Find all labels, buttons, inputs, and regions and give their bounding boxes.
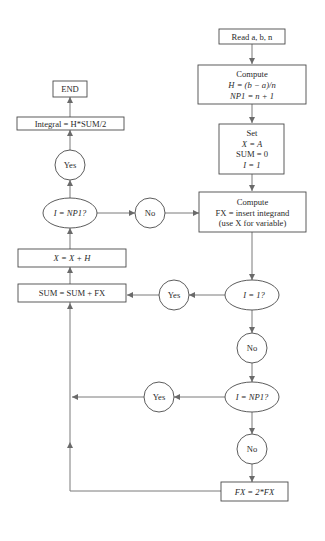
node-set-line2: X = A xyxy=(241,139,263,149)
node-compute-h-line3: NP1 = n + 1 xyxy=(229,91,274,101)
no-circle-i1: No xyxy=(237,333,267,363)
arrow-head-icon xyxy=(249,185,255,191)
arrow-head-icon xyxy=(249,327,255,333)
node-double-fx: FX = 2*FX xyxy=(221,482,288,501)
arrow-head-icon xyxy=(67,267,73,273)
arrow-head-icon xyxy=(249,117,255,123)
node-x-increment-label: X = X + H xyxy=(53,253,92,263)
node-end: END xyxy=(53,81,87,97)
arrow-head-icon xyxy=(129,210,135,216)
yes-circle-i1-label: Yes xyxy=(168,290,181,300)
arrow-head-icon xyxy=(249,476,255,482)
decision-i-equals-1-label: I = 1? xyxy=(242,290,265,300)
arrow-head-icon xyxy=(249,58,255,64)
node-compute-h-line2: H = (b − a)/n xyxy=(227,80,275,90)
node-sum-label: SUM = SUM + FX xyxy=(39,288,106,298)
yes-circle-i1: Yes xyxy=(159,280,189,310)
no-circle-left-label: No xyxy=(145,208,156,218)
arrow-head-icon xyxy=(249,428,255,434)
no-circle-i1-label: No xyxy=(247,343,258,353)
arrow-head-icon xyxy=(189,292,195,298)
decision-i-equals-np1-left: I = NP1? xyxy=(43,198,97,228)
decision-i-equals-np1-left-label: I = NP1? xyxy=(53,208,87,218)
node-read: Read a, b, n xyxy=(219,29,285,44)
arrow-head-icon xyxy=(67,180,73,186)
node-set-line4: I = 1 xyxy=(242,160,260,170)
node-compute-h-line1: Compute xyxy=(236,69,268,79)
arrow-head-icon xyxy=(249,376,255,382)
decision-i-equals-np1-right: I = NP1? xyxy=(225,382,279,412)
arrow-head-icon xyxy=(193,210,199,216)
node-read-label: Read a, b, n xyxy=(232,32,274,42)
node-compute-fx-line2: FX = insert integrand xyxy=(216,208,291,218)
node-double-fx-label: FX = 2*FX xyxy=(234,487,275,497)
node-end-label: END xyxy=(61,84,79,94)
arrow-head-icon xyxy=(67,130,73,136)
arrow-head-icon xyxy=(72,394,78,400)
node-x-increment: X = X + H xyxy=(18,249,126,267)
node-set-line3: SUM = 0 xyxy=(236,149,268,159)
arrow-head-icon xyxy=(67,303,73,309)
decision-i-equals-1: I = 1? xyxy=(225,280,279,310)
arrow-head-icon xyxy=(67,228,73,234)
node-integral: Integral = H*SUM/2 xyxy=(17,117,124,130)
edges xyxy=(67,44,255,491)
arrow-head-icon xyxy=(67,97,73,103)
yes-circle-left: Yes xyxy=(55,150,85,180)
yes-circle-np1-right-label: Yes xyxy=(153,392,166,402)
yes-circle-left-label: Yes xyxy=(64,160,77,170)
node-compute-fx-line3: (use X for variable) xyxy=(219,218,287,228)
decision-i-equals-np1-right-label: I = NP1? xyxy=(235,392,269,402)
yes-circle-np1-right: Yes xyxy=(144,382,174,412)
no-circle-np1-right: No xyxy=(237,434,267,464)
node-set-line1: Set xyxy=(247,128,259,138)
arrow-head-icon xyxy=(127,292,133,298)
arrow-head-icon xyxy=(249,274,255,280)
node-set: Set X = A SUM = 0 I = 1 xyxy=(219,124,284,174)
node-sum: SUM = SUM + FX xyxy=(18,284,126,302)
node-compute-fx-line1: Compute xyxy=(237,197,269,207)
flowchart: Read a, b, n Compute H = (b − a)/n NP1 =… xyxy=(0,0,325,541)
node-compute-h: Compute H = (b − a)/n NP1 = n + 1 xyxy=(198,65,306,104)
node-integral-label: Integral = H*SUM/2 xyxy=(35,119,107,129)
no-circle-np1-right-label: No xyxy=(247,444,258,454)
arrow-head-icon xyxy=(67,442,73,448)
no-circle-left: No xyxy=(135,198,165,228)
arrow-head-icon xyxy=(174,394,180,400)
node-compute-fx: Compute FX = insert integrand (use X for… xyxy=(199,192,306,232)
